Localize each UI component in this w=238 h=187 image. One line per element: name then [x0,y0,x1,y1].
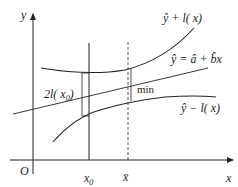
x-axis-label: x [225,171,232,185]
y-axis-label: y [20,8,27,22]
regression-line-label: ŷ = â + b̂x [170,52,223,66]
x0-tick-label: x0 [83,171,93,187]
xbar-tick-label: x̄ [122,170,129,184]
min-label: min [137,83,155,95]
width-label: 2l( x0) [44,87,74,103]
upper-curve-label: ŷ + l( x) [162,11,202,25]
regression-band-diagram: y x O x0 x̄ 2l( x0) min ŷ + l( x) ŷ = â … [0,0,238,187]
origin-label: O [20,164,29,178]
lower-curve-label: ŷ − l( x) [180,101,220,115]
